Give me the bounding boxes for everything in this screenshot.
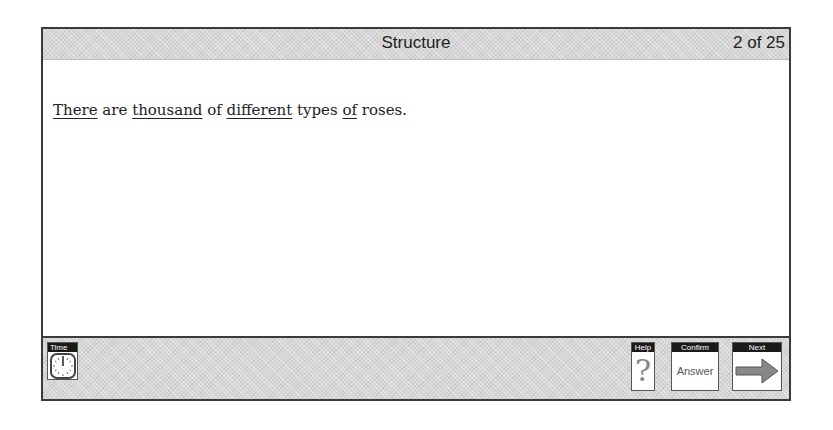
help-label: Help	[632, 343, 654, 352]
sentence-text: of	[202, 101, 226, 119]
sentence-text: types	[292, 101, 342, 119]
clock-icon	[48, 352, 77, 379]
option-b[interactable]: thousand	[132, 101, 202, 119]
confirm-label: Confirm	[672, 343, 718, 352]
question-sentence: There are thousand of different types of…	[53, 101, 407, 119]
option-a[interactable]: There	[53, 101, 98, 119]
test-window: Structure 2 of 25 There are thousand of …	[41, 27, 791, 401]
question-mark-icon: ?	[632, 352, 654, 390]
confirm-answer-button[interactable]: Confirm Answer	[671, 342, 719, 391]
time-button[interactable]: Time	[47, 342, 78, 380]
sentence-text: roses.	[357, 101, 407, 119]
section-title: Structure	[43, 33, 789, 53]
time-label: Time	[48, 343, 77, 352]
right-arrow-icon	[733, 352, 781, 390]
header-bar: Structure 2 of 25	[43, 29, 789, 60]
question-counter: 2 of 25	[733, 33, 785, 53]
next-button[interactable]: Next	[732, 342, 782, 391]
question-mark-glyph: ?	[635, 356, 651, 386]
answer-text: Answer	[677, 365, 714, 377]
footer-toolbar: Time Help ? Confirm	[43, 336, 789, 399]
next-label: Next	[733, 343, 781, 352]
help-button[interactable]: Help ?	[631, 342, 655, 391]
option-c[interactable]: different	[227, 101, 293, 119]
sentence-text: are	[98, 101, 133, 119]
option-d[interactable]: of	[342, 101, 357, 119]
